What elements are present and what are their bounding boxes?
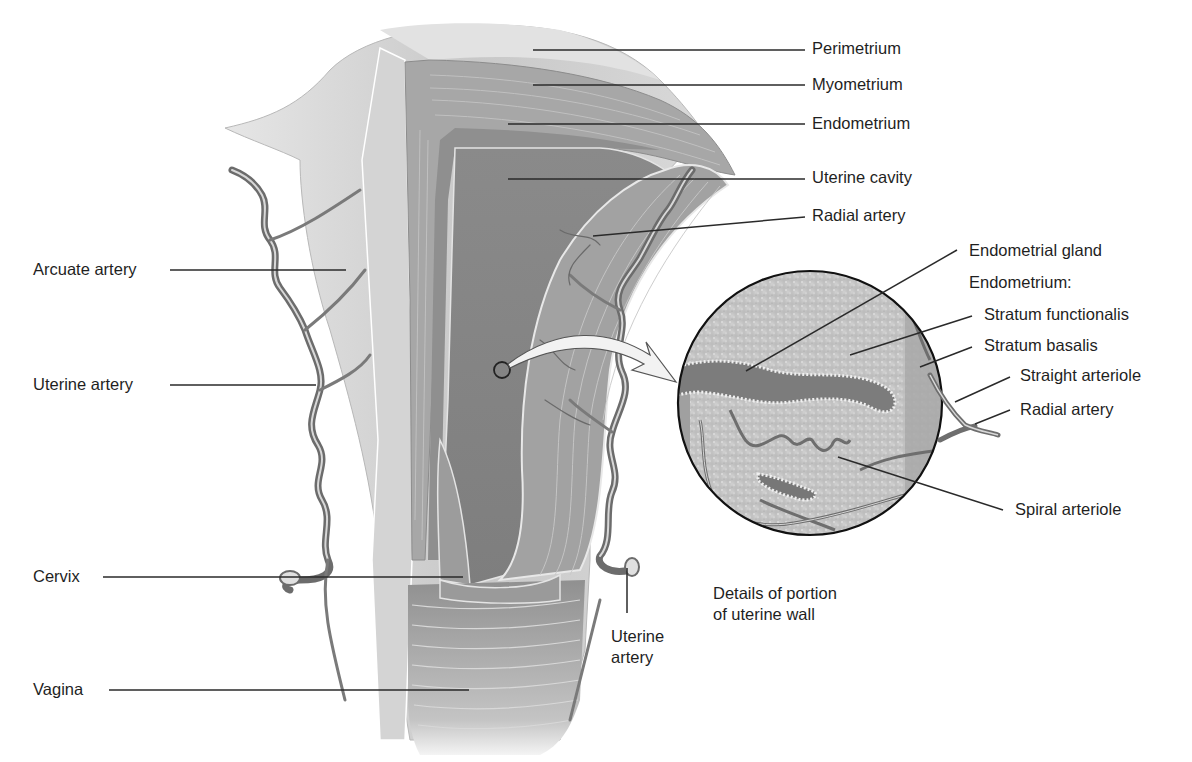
uterus-illustration: [0, 0, 1192, 762]
label-uterine-cavity: Uterine cavity: [812, 167, 912, 187]
label-endometrium: Endometrium: [812, 113, 910, 133]
label-stratum-functionalis: Stratum functionalis: [984, 304, 1129, 324]
label-cervix: Cervix: [33, 566, 80, 586]
label-stratum-basalis: Stratum basalis: [984, 335, 1098, 355]
label-radial-artery: Radial artery: [812, 205, 906, 225]
label-uterine-artery-bottom: Uterine artery: [611, 626, 664, 668]
label-endometrium-heading: Endometrium:: [969, 272, 1072, 292]
caption-uterine-wall-detail: Details of portion of uterine wall: [713, 583, 837, 625]
label-endometrial-gland: Endometrial gland: [969, 240, 1102, 260]
label-arcuate-artery: Arcuate artery: [33, 259, 137, 279]
label-straight-arteriole: Straight arteriole: [1020, 365, 1141, 385]
label-vagina: Vagina: [33, 679, 83, 699]
label-radial-artery-detail: Radial artery: [1020, 399, 1114, 419]
label-perimetrium: Perimetrium: [812, 38, 901, 58]
label-myometrium: Myometrium: [812, 74, 903, 94]
label-spiral-arteriole: Spiral arteriole: [1015, 499, 1121, 519]
label-uterine-artery: Uterine artery: [33, 374, 133, 394]
